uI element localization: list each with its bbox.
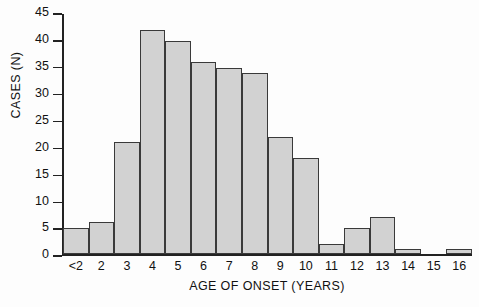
bar-slot <box>370 14 396 254</box>
x-tick-label: 10 <box>293 259 319 273</box>
bar-slot <box>293 14 319 254</box>
x-tick-label: 15 <box>421 259 447 273</box>
histogram-figure: CASES (N) 051015202530354045 <2234567891… <box>0 0 479 307</box>
x-tick-label: 4 <box>140 259 166 273</box>
y-tick-30: 30 <box>53 94 62 95</box>
bar-slot <box>242 14 268 254</box>
y-tick-10: 10 <box>53 202 62 203</box>
y-tick-25: 25 <box>53 121 62 122</box>
bar <box>216 68 242 255</box>
y-tick-20: 20 <box>53 148 62 149</box>
y-tick-45: 45 <box>53 13 62 14</box>
x-tick-label: 7 <box>216 259 242 273</box>
bar-slot <box>421 14 447 254</box>
x-axis-ticks: <22345678910111213141516 <box>63 259 472 273</box>
x-tick-label: 2 <box>89 259 115 273</box>
plot-area: 051015202530354045 <box>62 14 472 256</box>
x-axis-title: AGE OF ONSET (YEARS) <box>62 279 472 293</box>
bar-slot <box>114 14 140 254</box>
bar <box>140 30 166 254</box>
bar-slot <box>63 14 89 254</box>
x-tick-label: 9 <box>268 259 294 273</box>
y-tick-0: 0 <box>53 255 62 256</box>
x-tick-label: 11 <box>319 259 345 273</box>
y-tick-15: 15 <box>53 175 62 176</box>
bar-slot <box>216 14 242 254</box>
y-tick-label: 15 <box>35 167 49 182</box>
bar <box>344 228 370 255</box>
bar <box>165 41 191 254</box>
y-tick-40: 40 <box>53 40 62 41</box>
y-tick-label: 0 <box>42 247 49 262</box>
x-tick-label: 14 <box>395 259 421 273</box>
bar <box>242 73 268 254</box>
y-tick-label: 10 <box>35 194 49 209</box>
x-tick-label: 6 <box>191 259 217 273</box>
x-tick-label: 3 <box>114 259 140 273</box>
bar-slot <box>140 14 166 254</box>
y-tick-label: 5 <box>42 220 49 235</box>
bar-series <box>63 14 472 254</box>
bar-slot <box>344 14 370 254</box>
bar <box>268 137 294 254</box>
bar <box>114 142 140 254</box>
y-tick-label: 45 <box>35 5 49 20</box>
bar <box>191 62 217 254</box>
bar-slot <box>89 14 115 254</box>
y-tick-label: 20 <box>35 140 49 155</box>
y-tick-label: 25 <box>35 113 49 128</box>
bar-slot <box>446 14 472 254</box>
y-tick-label: 40 <box>35 32 49 47</box>
y-tick-35: 35 <box>53 67 62 68</box>
bar <box>293 158 319 254</box>
y-tick-5: 5 <box>53 228 62 229</box>
bar <box>395 249 421 254</box>
bar <box>89 222 115 254</box>
x-axis-line <box>62 254 472 256</box>
x-tick-label: 16 <box>446 259 472 273</box>
x-tick-label: <2 <box>63 259 89 273</box>
bar-slot <box>165 14 191 254</box>
bar-slot <box>191 14 217 254</box>
bar-slot <box>395 14 421 254</box>
x-tick-label: 13 <box>370 259 396 273</box>
y-tick-label: 35 <box>35 59 49 74</box>
bar <box>319 244 345 255</box>
x-tick-label: 12 <box>344 259 370 273</box>
y-tick-label: 30 <box>35 86 49 101</box>
bar-slot <box>268 14 294 254</box>
bar <box>63 228 89 255</box>
x-tick-label: 8 <box>242 259 268 273</box>
bar <box>446 249 472 254</box>
bar <box>370 217 396 254</box>
bar-slot <box>319 14 345 254</box>
x-tick-label: 5 <box>165 259 191 273</box>
y-axis-title: CASES (N) <box>9 25 23 145</box>
